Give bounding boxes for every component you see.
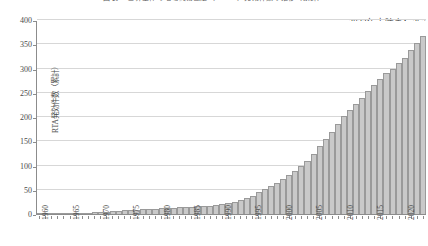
y-axis-tick-label: 350 (0, 41, 32, 49)
x-axis-tick-mark (386, 216, 387, 219)
y-axis-tick-mark (33, 191, 36, 192)
x-axis-tick-mark (271, 216, 272, 219)
x-axis-tick-label: 1965 (73, 205, 81, 220)
y-axis-tick-label: 0 (0, 211, 32, 219)
x-axis-tick-mark (222, 216, 223, 219)
y-axis-tick-label: 150 (0, 138, 32, 146)
x-axis-tick-mark (39, 216, 40, 219)
x-axis-tick-label: 2010 (347, 205, 355, 220)
x-axis-tick-label: 2005 (316, 205, 324, 220)
x-axis-tick-mark (234, 216, 235, 219)
y-axis-label: RTA発効件数（累計） (52, 63, 60, 133)
y-axis-tick-label: 250 (0, 90, 32, 98)
x-axis-tick-mark (423, 216, 424, 219)
x-axis-tick-mark (277, 216, 278, 219)
x-axis-tick-mark (173, 216, 174, 219)
x-axis-tick-label: 1980 (164, 205, 172, 220)
x-axis-tick-label: 1970 (103, 205, 111, 220)
x-axis-tick-mark (405, 216, 406, 219)
x-axis-ticks: 1960196519701975198019851990199520002005… (36, 216, 426, 246)
x-axis-tick-mark (399, 216, 400, 219)
x-axis-tick-mark (368, 216, 369, 219)
x-axis-tick-mark (283, 216, 284, 219)
chart-title: 図表 世界全体の地域貿易協定（ＲＴＡ）発効件数の推移（累計） (0, 0, 428, 2)
x-axis-tick-label: 2000 (286, 205, 294, 220)
x-axis-tick-mark (204, 216, 205, 219)
x-axis-tick-mark (70, 216, 71, 219)
x-axis-tick-mark (185, 216, 186, 219)
x-axis-tick-mark (118, 216, 119, 219)
y-axis-tick-mark (33, 70, 36, 71)
gridline (37, 19, 426, 20)
x-axis-tick-mark (307, 216, 308, 219)
x-axis-tick-mark (332, 216, 333, 219)
x-axis-tick-label: 2020 (408, 205, 416, 220)
x-axis-tick-mark (155, 216, 156, 219)
y-axis-tick-mark (33, 45, 36, 46)
x-axis-tick-mark (149, 216, 150, 219)
x-axis-tick-label: 1985 (194, 205, 202, 220)
x-axis-tick-mark (210, 216, 211, 219)
y-axis-tick-mark (33, 94, 36, 95)
x-axis-tick-mark (143, 216, 144, 219)
y-axis-tick-label: 300 (0, 66, 32, 74)
x-axis-tick-mark (216, 216, 217, 219)
x-axis-tick-mark (240, 216, 241, 219)
x-axis-tick-mark (161, 216, 162, 219)
x-axis-tick-mark (338, 216, 339, 219)
x-axis-tick-mark (362, 216, 363, 219)
chart-figure: 図表 世界全体の地域貿易協定（ＲＴＡ）発効件数の推移（累計） 2023年末時点：… (0, 0, 428, 246)
x-axis-tick-mark (325, 216, 326, 219)
x-axis-tick-label: 1990 (225, 205, 233, 220)
x-axis-tick-mark (265, 216, 266, 219)
bar-series (37, 21, 426, 214)
x-axis-tick-mark (94, 216, 95, 219)
x-axis-tick-mark (301, 216, 302, 219)
y-axis-tick-mark (33, 142, 36, 143)
x-axis-tick-mark (88, 216, 89, 219)
y-axis-tick-label: 200 (0, 114, 32, 122)
x-axis-tick-label: 1960 (42, 205, 50, 220)
x-axis-tick-mark (356, 216, 357, 219)
y-axis-tick-mark (33, 167, 36, 168)
x-axis-tick-label: 2015 (377, 205, 385, 220)
x-axis-tick-label: 1995 (255, 205, 263, 220)
x-axis-tick-label: 1975 (133, 205, 141, 220)
x-axis-tick-mark (124, 216, 125, 219)
y-axis-tick-label: 50 (0, 187, 32, 195)
x-axis-tick-mark (246, 216, 247, 219)
y-axis-tick-mark (33, 21, 36, 22)
y-axis-tick-label: 100 (0, 163, 32, 171)
x-axis-tick-mark (82, 216, 83, 219)
y-axis-tick-mark (33, 118, 36, 119)
x-axis-tick-mark (63, 216, 64, 219)
y-axis-tick-label: 400 (0, 17, 32, 25)
x-axis-tick-mark (392, 216, 393, 219)
bar (420, 36, 426, 214)
x-axis-tick-mark (112, 216, 113, 219)
x-axis-tick-mark (51, 216, 52, 219)
x-axis-tick-mark (344, 216, 345, 219)
x-axis-tick-mark (295, 216, 296, 219)
x-axis-tick-mark (100, 216, 101, 219)
x-axis-tick-mark (179, 216, 180, 219)
x-axis-tick-mark (417, 216, 418, 219)
plot-area: RTA発効件数（累計） (36, 21, 426, 215)
x-axis-tick-mark (57, 216, 58, 219)
